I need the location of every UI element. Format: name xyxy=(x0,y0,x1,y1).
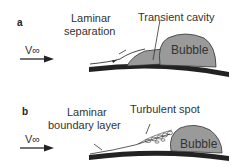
label-turbulent-spot: Turbulent spot xyxy=(130,104,200,115)
label-bubble: Bubble xyxy=(180,139,217,150)
label-bubble: Bubble xyxy=(171,45,208,56)
velocity-arrow-icon xyxy=(20,145,54,152)
leader-line xyxy=(146,124,150,134)
label-laminar-boundary-line1: Laminar xyxy=(67,107,107,118)
leader-line xyxy=(94,144,102,150)
transient-cavity xyxy=(127,49,163,66)
velocity-arrow-icon xyxy=(20,56,54,63)
turbulent-spot xyxy=(138,130,173,144)
panel-label-a: a xyxy=(17,17,23,28)
label-velocity: V∞ xyxy=(25,45,40,56)
label-velocity: V∞ xyxy=(25,134,40,145)
leader-line xyxy=(119,50,126,54)
label-laminar-separation-line1: Laminar xyxy=(71,13,111,24)
label-laminar-boundary-line2: boundary layer xyxy=(48,120,121,131)
label-laminar-separation-line2: separation xyxy=(64,26,115,37)
label-transient-cavity: Transient cavity xyxy=(138,12,215,23)
panel-label-b: b xyxy=(22,106,28,117)
